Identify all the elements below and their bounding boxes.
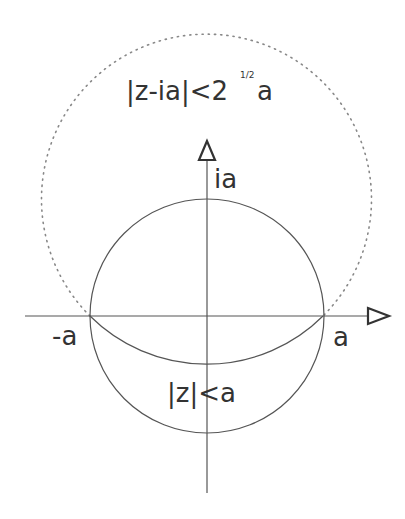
inner-region-label: |z|<a <box>167 378 236 409</box>
imag-point-label: ia <box>214 164 237 194</box>
outer-region-tail: a <box>257 76 273 106</box>
complex-plane-diagram: |z-ia|<2 1/2 a ia -a a |z|<a <box>0 0 405 519</box>
real-axis-arrow-icon <box>368 308 389 324</box>
neg-real-point-label: -a <box>52 321 77 351</box>
outer-region-exponent: 1/2 <box>240 70 254 80</box>
outer-region-label: |z-ia|<2 <box>126 76 228 107</box>
imaginary-axis-arrow-icon <box>199 141 215 160</box>
pos-real-point-label: a <box>333 322 349 352</box>
